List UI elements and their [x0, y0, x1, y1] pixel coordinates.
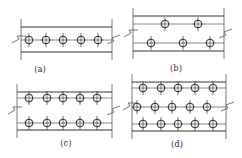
- bolt-icon: [93, 116, 102, 130]
- break-line-icon: [221, 102, 234, 111]
- bolt-icon: [77, 33, 86, 47]
- bolt-icon: [133, 100, 142, 114]
- bolt-icon: [161, 17, 170, 31]
- bolt-icon: [42, 33, 51, 47]
- bolt-icon: [147, 36, 156, 50]
- bolt-icon: [59, 91, 68, 105]
- panel-label: (d): [171, 139, 183, 149]
- bolt-icon: [43, 116, 52, 130]
- bolt-icon: [194, 17, 203, 31]
- bolt-icon: [157, 81, 166, 95]
- bolt-pattern-figure: (a) (b) (c) (d): [0, 0, 242, 158]
- bolt-icon: [25, 33, 34, 47]
- panel-label: (a): [34, 64, 46, 74]
- panel-c: (c): [8, 84, 120, 148]
- bolt-icon: [168, 100, 177, 114]
- break-line-icon: [219, 29, 232, 38]
- bolt-icon: [209, 81, 218, 95]
- bolt-icon: [209, 117, 218, 131]
- bolt-icon: [76, 91, 85, 105]
- panel-b: (b): [124, 8, 232, 73]
- break-line-icon: [8, 107, 22, 114]
- bolt-icon: [76, 116, 85, 130]
- bolt-icon: [43, 91, 52, 105]
- panel-label: (c): [60, 138, 71, 148]
- bolt-icon: [139, 81, 148, 95]
- bolt-icon: [94, 33, 103, 47]
- bolt-icon: [93, 91, 102, 105]
- bolt-icon: [191, 117, 200, 131]
- bolt-icon: [191, 81, 200, 95]
- bolt-icon: [59, 33, 68, 47]
- bolt-icon: [25, 91, 34, 105]
- bolt-icon: [157, 117, 166, 131]
- panel-label: (b): [170, 63, 182, 73]
- break-line-icon: [124, 30, 138, 37]
- bolt-icon: [206, 36, 215, 50]
- bolt-icon: [186, 100, 195, 114]
- panel-a: (a): [12, 19, 120, 74]
- bolt-icon: [25, 116, 34, 130]
- bolt-icon: [179, 36, 188, 50]
- break-line-icon: [107, 35, 120, 44]
- bolt-icon: [139, 117, 148, 131]
- bolt-icon: [59, 116, 68, 130]
- bolt-icon: [174, 117, 183, 131]
- break-line-icon: [107, 106, 120, 115]
- bolt-icon: [174, 81, 183, 95]
- bolt-icon: [151, 100, 160, 114]
- bolt-icon: [203, 100, 212, 114]
- break-line-icon: [12, 36, 26, 43]
- panel-d: (d): [123, 74, 234, 149]
